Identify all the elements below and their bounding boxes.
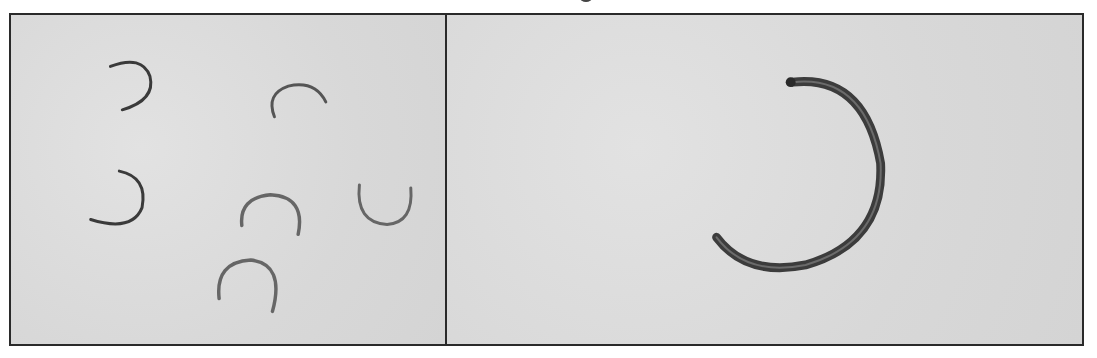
ring-6 <box>219 260 276 311</box>
panel-right-single-ring <box>447 15 1082 344</box>
ring-2 <box>272 85 326 117</box>
large-ring-illustration <box>447 15 1082 344</box>
ring-1 <box>110 62 150 110</box>
figure-frame <box>9 13 1084 346</box>
ring-5 <box>359 185 411 225</box>
large-ring <box>717 82 881 268</box>
caption-fragment <box>580 0 592 2</box>
rings-illustration <box>11 15 445 344</box>
ring-4 <box>242 195 300 235</box>
ring-3 <box>91 171 143 224</box>
panel-left-multiple-rings <box>11 15 447 344</box>
